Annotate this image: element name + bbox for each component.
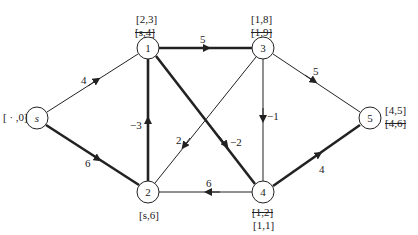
node-2-label: [s,6]: [139, 209, 159, 221]
node-s-label: [ · ,0]: [3, 111, 28, 123]
svg-text:3: 3: [260, 42, 266, 54]
weight-4-5: 4: [319, 163, 325, 175]
weight-2-1: −3: [130, 119, 142, 131]
node-2: 2: [137, 181, 159, 203]
graph-diagram: s 1 2 3 4 5: [0, 0, 418, 235]
node-1-label-struck: [s,4]: [135, 26, 155, 38]
svg-text:5: 5: [367, 112, 373, 124]
edge-3-5: [273, 54, 360, 112]
node-3-label-current: [1,8]: [251, 13, 272, 25]
node-3: 3: [252, 37, 274, 59]
node-s: s: [26, 107, 48, 129]
node-4: 4: [252, 181, 274, 203]
node-3-label-struck: [1,9]: [251, 26, 272, 38]
weight-s-1: 4: [81, 74, 87, 86]
weight-4-2: 6: [206, 177, 212, 189]
node-1: 1: [137, 37, 159, 59]
node-1-label-current: [2,3]: [136, 13, 157, 25]
weight-3-2: 2: [176, 134, 182, 146]
weight-1-4: −2: [230, 136, 242, 148]
svg-text:4: 4: [260, 186, 266, 198]
node-4-label-struck: [1,2]: [252, 206, 273, 218]
weight-3-4: −1: [267, 110, 279, 122]
node-5-label-struck: [4,6]: [385, 117, 406, 129]
edge-s-2: [46, 125, 139, 185]
node-5: 5: [359, 107, 381, 129]
svg-text:2: 2: [145, 186, 151, 198]
edge-s-1: [47, 54, 138, 112]
node-4-label-current: [1,1]: [253, 219, 274, 231]
svg-text:1: 1: [145, 42, 151, 54]
svg-text:s: s: [35, 112, 39, 124]
node-5-label-current: [4,5]: [385, 104, 406, 116]
edge-4-5: [273, 125, 360, 186]
weight-s-2: 6: [85, 157, 91, 169]
weight-3-5: 5: [313, 65, 319, 77]
weight-1-3: 5: [200, 33, 206, 45]
